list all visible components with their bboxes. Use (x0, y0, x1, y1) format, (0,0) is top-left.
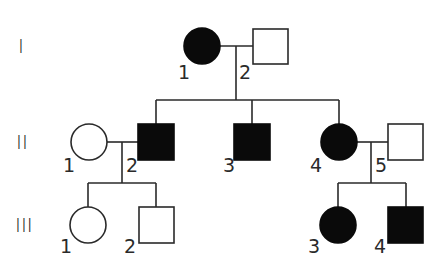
generation-label-I: I (18, 34, 24, 58)
label-II-2: 2 (126, 154, 138, 176)
label-III-1: 1 (60, 235, 72, 257)
individual-II-1-unaffected-female (71, 124, 107, 160)
individual-I-1-affected-female (184, 28, 220, 64)
label-II-1: 1 (63, 154, 75, 176)
label-II-3: 3 (223, 154, 235, 176)
label-III-4: 4 (374, 235, 386, 257)
label-III-3: 3 (308, 235, 320, 257)
individual-III-1-unaffected-female (70, 207, 106, 243)
label-II-4: 4 (310, 154, 322, 176)
label-I-1: 1 (178, 61, 190, 83)
generation-label-III: III (15, 213, 33, 237)
individual-III-4-affected-male (388, 207, 423, 243)
individual-II-5-unaffected-male (388, 124, 423, 160)
individual-III-3-affected-female (320, 207, 356, 243)
individual-II-2-affected-male (138, 124, 174, 160)
generation-label-II: II (16, 130, 28, 154)
individual-I-2-unaffected-male (253, 29, 288, 64)
pedigree-chart: I II III 1 2 1 2 3 4 5 1 2 3 4 (0, 0, 448, 265)
individual-II-3-affected-male (234, 124, 270, 160)
individual-III-2-unaffected-male (139, 207, 174, 243)
label-III-2: 2 (124, 235, 136, 257)
label-II-5: 5 (375, 154, 387, 176)
label-I-2: 2 (239, 61, 251, 83)
individual-II-4-affected-female (321, 124, 357, 160)
